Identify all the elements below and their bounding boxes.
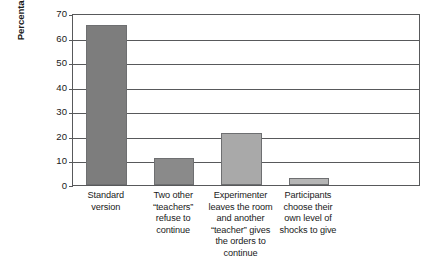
x-axis-category-label-line: Participants — [267, 190, 348, 202]
y-axis-tick-label: 10 — [56, 156, 67, 166]
y-axis-tick-label: 20 — [56, 132, 67, 142]
plot-area — [72, 14, 420, 186]
x-axis-category-label-line: continue — [200, 248, 281, 260]
bars-group — [73, 15, 419, 185]
y-axis-title: Percentage giving the highest level of s… — [12, 0, 42, 44]
bar — [289, 178, 329, 185]
x-axis-category-labels: StandardversionTwo other“teachers”refuse… — [72, 190, 420, 268]
x-axis-category-label-line: the orders to — [200, 236, 281, 248]
y-axis-tick-label: 40 — [56, 83, 67, 93]
y-axis-tick-mark — [69, 186, 73, 187]
bar — [221, 133, 261, 185]
y-axis-tick-labels: 010203040506070 — [44, 14, 70, 186]
x-axis-category-label-line: shocks to give — [267, 225, 348, 237]
bar-chart: Percentage giving the highest level of s… — [0, 0, 442, 271]
x-axis-category-label-line: choose their — [267, 202, 348, 214]
y-axis-tick-label: 30 — [56, 107, 67, 117]
x-axis-category-label-line: own level of — [267, 213, 348, 225]
x-axis-category-label: Participantschoose theirown level ofshoc… — [267, 190, 348, 236]
bar — [86, 25, 126, 185]
y-axis-tick-label: 50 — [56, 58, 67, 68]
y-axis-tick-label: 60 — [56, 34, 67, 44]
y-axis-tick-label: 70 — [56, 9, 67, 19]
bar — [154, 158, 194, 185]
